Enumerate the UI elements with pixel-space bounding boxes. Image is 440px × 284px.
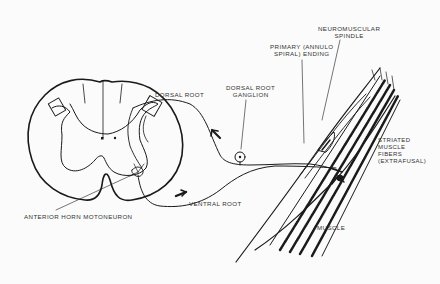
label-anterior-horn-motoneuron: ANTERIOR HORN MOTONEURON: [24, 213, 133, 220]
label-dorsal-root: DORSAL ROOT: [155, 91, 204, 98]
grey-matter: [52, 102, 158, 175]
label-dorsal-root-ganglion: DORSAL ROOT GANGLION: [226, 84, 275, 98]
reflex-arc-diagram: [0, 0, 440, 284]
leader-primary-ending: [302, 60, 304, 143]
leader-motoneuron: [56, 174, 134, 210]
label-muscle: MUSCLE: [317, 224, 345, 231]
dorsal-root-nerve: [133, 100, 337, 170]
label-striated-muscle-fibers: STRIATED MUSCLE FIBERS (EXTRAFUSAL): [378, 137, 426, 165]
label-neuromuscular-spindle: NEUROMUSCULAR SPINDLE: [318, 25, 380, 39]
leader-ganglion: [241, 100, 246, 149]
label-ventral-root: VENTRAL ROOT: [189, 200, 242, 207]
label-primary-annulo-spiral-ending: PRIMARY (ANNULO SPIRAL) ENDING: [270, 43, 334, 57]
